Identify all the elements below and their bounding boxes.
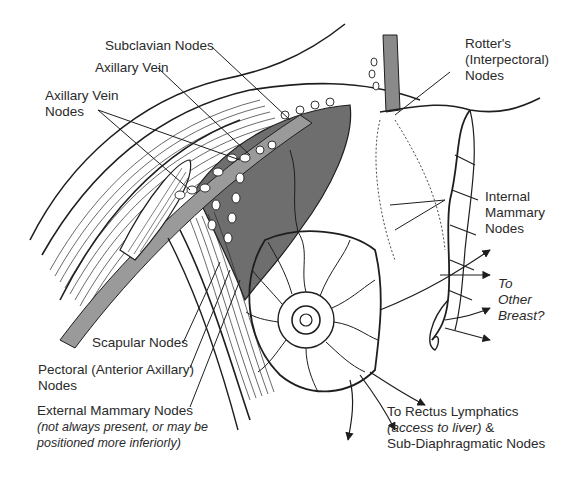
label-subclavian-nodes: Subclavian Nodes bbox=[105, 38, 214, 54]
label-text: Rotter's bbox=[465, 36, 549, 52]
label-text: Axillary Vein bbox=[95, 60, 169, 76]
label-pectoral-nodes: Pectoral (Anterior Axillary) Nodes bbox=[38, 362, 194, 394]
label-internal-mammary-nodes: Internal Mammary Nodes bbox=[485, 189, 545, 237]
label-text: Scapular Nodes bbox=[92, 335, 188, 351]
label-text: Nodes bbox=[38, 378, 194, 394]
label-line-2: (access to liver) & bbox=[387, 420, 545, 436]
label-note: (not always present, or may be bbox=[37, 419, 208, 435]
label-text: To bbox=[498, 276, 545, 292]
label-text: Nodes bbox=[485, 221, 545, 237]
label-rotters-nodes: Rotter's (Interpectoral) Nodes bbox=[465, 36, 549, 84]
label-axillary-vein: Axillary Vein bbox=[95, 60, 169, 76]
label-text: Other bbox=[498, 292, 545, 308]
label-text: Sub-Diaphragmatic Nodes bbox=[387, 436, 545, 452]
label-text: Pectoral (Anterior Axillary) bbox=[38, 362, 194, 378]
label-text: Mammary bbox=[485, 205, 545, 221]
label-text: Nodes bbox=[465, 68, 549, 84]
nipple bbox=[278, 292, 334, 348]
label-external-mammary-nodes: External Mammary Nodes (not always prese… bbox=[37, 403, 208, 451]
label-scapular-nodes: Scapular Nodes bbox=[92, 335, 188, 351]
label-text: Nodes bbox=[45, 104, 119, 120]
label-other-breast: To Other Breast? bbox=[498, 276, 545, 324]
label-text: Subclavian Nodes bbox=[105, 38, 214, 54]
subclavian-vessel bbox=[383, 35, 400, 112]
label-text: Internal bbox=[485, 189, 545, 205]
label-text: (Interpectoral) bbox=[465, 52, 549, 68]
label-text: & bbox=[482, 420, 495, 435]
label-note: positioned more inferiorly) bbox=[37, 435, 208, 451]
label-text: To Rectus Lymphatics bbox=[387, 404, 545, 420]
label-axillary-vein-nodes: Axillary Vein Nodes bbox=[45, 88, 119, 120]
label-rectus-lymphatics: To Rectus Lymphatics (access to liver) &… bbox=[387, 404, 545, 452]
label-text: Axillary Vein bbox=[45, 88, 119, 104]
label-text: External Mammary Nodes bbox=[37, 403, 208, 419]
label-note: (access to liver) bbox=[387, 420, 482, 435]
label-text: Breast? bbox=[498, 308, 545, 324]
